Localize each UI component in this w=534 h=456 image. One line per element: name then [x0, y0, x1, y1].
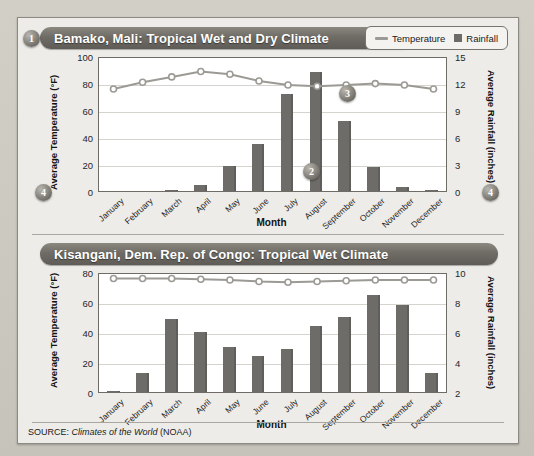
temperature-point-february [140, 79, 146, 85]
y-tick-right: 8 [455, 298, 481, 309]
callout-marker-1[interactable]: 1 [23, 30, 40, 47]
temperature-point-april [198, 276, 204, 282]
y-tick-right: 6 [455, 328, 481, 339]
temperature-point-november [401, 277, 407, 283]
source-suffix: (NOAA) [160, 427, 192, 437]
source-prefix: SOURCE: [28, 427, 69, 437]
climate-figure: 1 Bamako, Mali: Tropical Wet and Dry Cli… [17, 17, 519, 444]
y-tick-left: 0 [67, 187, 93, 198]
y-tick-right: 4 [455, 358, 481, 369]
page-background: 1 Bamako, Mali: Tropical Wet and Dry Cli… [0, 0, 534, 456]
temperature-point-december [431, 86, 437, 92]
temperature-point-june [256, 78, 262, 84]
temperature-point-august [314, 279, 320, 285]
y-tick-left: 60 [67, 298, 93, 309]
temperature-point-october [372, 277, 378, 283]
line-series-temperature-bamako [99, 58, 446, 191]
y-tick-left: 80 [67, 79, 93, 90]
chart-legend: Temperature Rainfall [365, 26, 508, 50]
y-axis-label-right-chart1: Average Rainfall (inches) [486, 70, 497, 183]
temperature-point-october [372, 81, 378, 87]
y-tick-left: 40 [67, 133, 93, 144]
temperature-point-august [314, 83, 320, 89]
temperature-polyline [114, 72, 434, 90]
source-title: Climates of the World [72, 427, 158, 437]
y-tick-right: 3 [455, 160, 481, 171]
callout-marker-2[interactable]: 2 [303, 163, 320, 180]
plot-area-kisangani [98, 273, 447, 393]
chart-title-banner-bamako: Bamako, Mali: Tropical Wet and Dry Clima… [40, 27, 412, 49]
legend-item-temperature: Temperature [375, 33, 445, 44]
legend-item-rainfall: Rainfall [454, 33, 498, 44]
y-tick-right: 10 [455, 268, 481, 279]
callout-marker-3[interactable]: 3 [339, 85, 356, 102]
y-axis-label-left-chart2: Average Temperature (°F) [48, 273, 59, 388]
temperature-point-january [111, 276, 117, 282]
y-tick-right: 0 [455, 187, 481, 198]
callout-label: 1 [29, 33, 34, 44]
temperature-point-july [285, 82, 291, 88]
plot-area-bamako [98, 57, 447, 192]
source-divider [32, 422, 504, 423]
page-title: Bamako, Mali: Tropical Wet and Dry Clima… [54, 31, 329, 46]
callout-label: 4 [41, 187, 46, 198]
callout-marker-4-left-chart1[interactable]: 4 [35, 184, 52, 201]
y-tick-right: 2 [455, 388, 481, 399]
legend-label-temperature: Temperature [392, 33, 445, 44]
y-tick-left: 20 [67, 358, 93, 369]
chart-panel-bamako: 1 Bamako, Mali: Tropical Wet and Dry Cli… [18, 18, 518, 233]
y-tick-right: 12 [455, 79, 481, 90]
y-axis-label-left-chart1: Average Temperature (°F) [48, 75, 59, 190]
y-tick-right: 6 [455, 133, 481, 144]
y-tick-left: 80 [67, 268, 93, 279]
y-tick-left: 60 [67, 106, 93, 117]
temperature-point-december [431, 277, 437, 283]
y-tick-left: 0 [67, 388, 93, 399]
source-attribution: SOURCE: Climates of the World (NOAA) [28, 427, 192, 437]
temperature-point-may [227, 277, 233, 283]
line-series-temperature-kisangani [99, 274, 446, 392]
temperature-polyline [114, 279, 434, 283]
y-tick-left: 40 [67, 328, 93, 339]
temperature-point-june [256, 279, 262, 285]
temperature-point-march [169, 276, 175, 282]
callout-label: 4 [488, 187, 493, 198]
temperature-point-july [285, 279, 291, 285]
callout-label: 3 [345, 88, 350, 99]
temperature-point-april [198, 69, 204, 75]
page-title-2: Kisangani, Dem. Rep. of Congo: Tropical … [54, 247, 388, 262]
temperature-point-may [227, 71, 233, 77]
legend-square-swatch-icon [454, 34, 462, 42]
legend-line-swatch-icon [375, 37, 388, 40]
y-axis-label-right-chart2: Average Rainfall (inches) [486, 276, 497, 389]
chart-title-banner-kisangani: Kisangani, Dem. Rep. of Congo: Tropical … [40, 243, 498, 265]
temperature-point-september [343, 278, 349, 284]
temperature-point-march [169, 74, 175, 80]
temperature-point-november [401, 82, 407, 88]
legend-label-rainfall: Rainfall [466, 33, 498, 44]
y-tick-left: 20 [67, 160, 93, 171]
temperature-point-january [111, 86, 117, 92]
y-tick-right: 15 [455, 52, 481, 63]
callout-marker-4-right-chart1[interactable]: 4 [482, 184, 499, 201]
x-axis-title-chart1: Month [98, 217, 445, 228]
y-tick-right: 9 [455, 106, 481, 117]
temperature-point-february [140, 276, 146, 282]
chart-panel-kisangani: Kisangani, Dem. Rep. of Congo: Tropical … [18, 233, 518, 418]
callout-label: 2 [309, 166, 314, 177]
y-tick-left: 100 [67, 52, 93, 63]
